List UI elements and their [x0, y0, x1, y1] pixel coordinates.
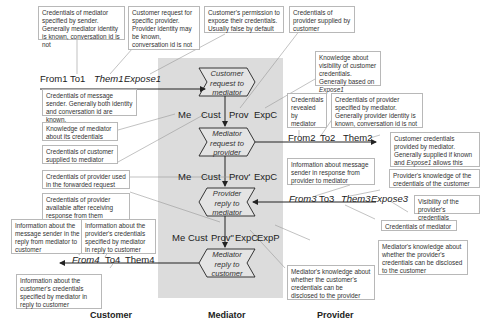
state-expc-3: ExpC: [235, 232, 258, 243]
state-expc-1: ExpC: [254, 109, 277, 120]
field-to4: To4: [105, 254, 120, 265]
field-from1: From1: [40, 73, 67, 84]
field-them1: Them1: [94, 73, 124, 84]
note-expc2: Mediator's knowledge about whether the c…: [287, 265, 375, 300]
field-from2: From2: [288, 132, 315, 143]
note-them4: Information about the customer's credent…: [16, 274, 102, 309]
note-from4: Information about the message sender in …: [11, 219, 84, 254]
note-provp: Credentials of provider used in the forw…: [42, 170, 130, 189]
note-them2-text-end: allows this: [433, 159, 462, 166]
step-3-line-3: mediator: [203, 208, 251, 218]
state-me-3: Me: [172, 232, 185, 243]
field-from3: From3: [289, 193, 316, 204]
state-me-1: Me: [178, 109, 191, 120]
note-me: Knowledge of mediator about its credenti…: [42, 122, 118, 141]
field-to1: To1: [70, 73, 85, 84]
field-them4: Them4: [125, 254, 155, 265]
note-expose3: Visibility of the provider's credentials: [414, 195, 480, 214]
note-expc-text: Knowledge about visibility of customer c…: [319, 54, 376, 85]
lane-label-mediator: Mediator: [208, 310, 246, 320]
note-them3: Provider's knowledge of the credentials …: [389, 169, 480, 188]
state-expp-3: ExpP: [257, 232, 280, 243]
step-2-label: Mediator request to provider: [203, 129, 251, 158]
lane-label-customer: Customer: [90, 310, 132, 320]
note-expose1: Customer's permission to expose their cr…: [204, 6, 284, 33]
state-me-2: Me: [178, 171, 191, 182]
step-3-line-2: reply to: [203, 199, 251, 209]
field-from4: From4: [72, 254, 99, 265]
note-prov: Credentials of provider supplied by cust…: [289, 6, 355, 33]
state-prov-1: Prov: [229, 109, 249, 120]
note-cust: Credentials of customer supplied to medi…: [42, 145, 118, 164]
note-from2: Credentials revealed by mediator: [287, 93, 327, 128]
step-2-line-3: provider: [203, 148, 251, 158]
field-them3: Them3: [341, 193, 371, 204]
note-to2: Credentials of provider specified by med…: [331, 93, 423, 128]
note-to4: Information about the provider's credent…: [81, 219, 156, 254]
step-3-label: Provider reply to mediator: [203, 189, 251, 218]
step-1-label: Customer request to mediator: [203, 69, 251, 98]
note-to3: Credentials of mediator: [381, 220, 457, 231]
note-expp: Mediator's knowledge about whether the p…: [378, 240, 468, 275]
step-2-line-2: request to: [203, 139, 251, 149]
note-them2-italic: Expose1: [406, 159, 431, 166]
field-to2: To2: [320, 132, 335, 143]
state-cust-2: Cust: [201, 171, 221, 182]
step-1-line-3: mediator: [203, 88, 251, 98]
step-4-line-2: reply to: [203, 260, 251, 270]
note-provpp: Credentials of provider available after …: [42, 193, 130, 220]
state-expc-2: ExpC: [254, 171, 277, 182]
state-cust-1: Cust: [201, 109, 221, 120]
note-them2: Customer credentials provided by mediato…: [390, 132, 480, 167]
note-from1: Credentials of message sender. Generally…: [42, 89, 137, 116]
note-them1: Customer request for specific provider. …: [128, 6, 200, 50]
step-4-line-1: Mediator: [203, 250, 251, 260]
field-to3: To3: [319, 193, 334, 204]
step-1-line-2: request to: [203, 79, 251, 89]
step-4-label: Mediator reply to customer: [203, 250, 251, 279]
step-2-line-1: Mediator: [203, 129, 251, 139]
note-expc-italic: Expose1: [319, 86, 344, 93]
field-expose1: Expose1: [124, 73, 161, 84]
step-1-line-1: Customer: [203, 69, 251, 79]
field-them2: Them2: [343, 132, 373, 143]
state-prov-2: Prov': [229, 171, 250, 182]
note-to1: Credentials of mediator specified by sen…: [38, 6, 125, 40]
state-cust-3: Cust: [188, 232, 208, 243]
step-3-line-1: Provider: [203, 189, 251, 199]
note-expc: Knowledge about visibility of customer c…: [315, 51, 381, 86]
field-expose3: Expose3: [371, 193, 408, 204]
step-4-line-3: customer: [203, 269, 251, 279]
note-from3: Information about message sender in resp…: [287, 158, 375, 185]
state-prov-3: Prov": [211, 232, 234, 243]
lane-label-provider: Provider: [317, 310, 354, 320]
